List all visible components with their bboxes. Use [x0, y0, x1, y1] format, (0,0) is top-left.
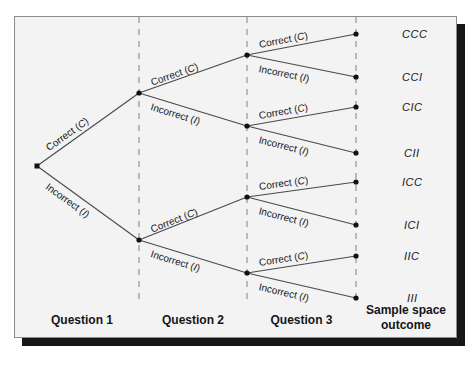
caption-question-1: Question 1: [25, 313, 139, 328]
cut-off-header-text: [0, 0, 471, 10]
branch-root-incorrect: [37, 166, 139, 240]
branch-root-correct: [37, 93, 139, 166]
node-cii: [353, 150, 358, 155]
outcome-cii: CII: [404, 147, 420, 159]
caption-question-3: Question 3: [247, 313, 356, 328]
node-i: [136, 237, 141, 242]
node-c: [136, 90, 141, 95]
outcome-cci: CCI: [402, 71, 422, 83]
outcome-iic: IIC: [404, 250, 420, 262]
caption-sample-space-line1: Sample space: [356, 303, 456, 318]
node-ci: [244, 123, 249, 128]
node-cci: [353, 74, 358, 79]
outcome-cic: CIC: [402, 101, 422, 113]
caption-sample-space: Sample space outcome: [356, 303, 456, 333]
tree-graphics: [15, 17, 456, 337]
node-icc: [353, 179, 358, 184]
node-cc: [244, 52, 249, 57]
node-ccc: [353, 31, 358, 36]
caption-question-2: Question 2: [139, 313, 247, 328]
outcome-ici: ICI: [404, 219, 420, 231]
node-ic: [244, 194, 249, 199]
caption-sample-space-line2: outcome: [356, 318, 456, 333]
node-ii: [244, 270, 249, 275]
node-root: [35, 164, 40, 169]
node-iic: [353, 253, 358, 258]
diagram-panel: Correct (C) Incorrect (I) Correct (C) In…: [14, 16, 457, 338]
outcome-icc: ICC: [402, 176, 422, 188]
outcome-ccc: CCC: [402, 28, 427, 40]
node-ici: [353, 222, 358, 227]
tree-diagram-figure: Correct (C) Incorrect (I) Correct (C) In…: [0, 0, 471, 370]
node-cic: [353, 104, 358, 109]
node-iii: [353, 295, 358, 300]
